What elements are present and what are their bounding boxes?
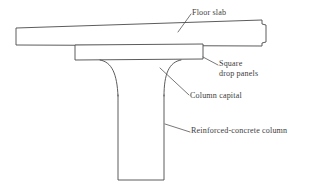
label-square-drop-panels-line2: drop panels (219, 69, 258, 79)
leader-line-drop-panels (203, 57, 218, 65)
column-shaft-outline (118, 95, 164, 180)
column-shaft (118, 95, 164, 180)
column-capital-left-curve (100, 60, 118, 96)
column-capital (100, 60, 181, 96)
label-reinforced-concrete-column-text: Reinforced-concrete column (191, 126, 287, 136)
drop-panel-outline (75, 44, 203, 60)
label-square-drop-panels: Square drop panels (219, 59, 258, 79)
structural-section-drawing (0, 0, 317, 187)
label-square-drop-panels-line1: Square (219, 59, 258, 69)
label-column-capital-text: Column capital (190, 91, 242, 101)
label-column-capital: Column capital (190, 91, 242, 101)
label-floor-slab: Floor slab (192, 8, 226, 18)
label-floor-slab-text: Floor slab (192, 8, 226, 18)
leader-line-rc-column (165, 124, 190, 132)
label-reinforced-concrete-column: Reinforced-concrete column (191, 126, 287, 136)
diagram-canvas: Floor slab Square drop panels Column cap… (0, 0, 317, 187)
floor-slab (16, 20, 266, 46)
drop-panel (75, 44, 203, 60)
floor-slab-outline (16, 20, 266, 46)
column-capital-right-curve (164, 60, 181, 96)
